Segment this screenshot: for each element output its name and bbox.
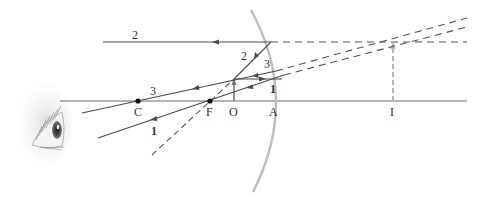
label-ray-2-inner: 2 <box>241 49 247 63</box>
ray-1-reflected <box>98 75 284 138</box>
ray-2-arrowhead <box>212 40 219 45</box>
ray-1-incident-arrowhead <box>259 77 266 82</box>
label-ray-3-inner: 3 <box>264 57 270 71</box>
label-ray-2-outer: 2 <box>132 28 138 42</box>
ray-3-incident-arrowhead <box>252 73 259 78</box>
label-ray-1-inner: 1 <box>270 82 276 96</box>
focal-point <box>207 98 212 103</box>
label-I: I <box>390 105 394 119</box>
label-O: O <box>229 105 238 119</box>
center-of-curvature-point <box>135 98 140 103</box>
label-C: C <box>134 105 142 119</box>
ray-2-incident-arrowhead <box>254 52 259 59</box>
label-A: A <box>269 105 278 119</box>
ray-1-reflected-arrowhead-2 <box>246 85 254 90</box>
label-F: F <box>206 105 213 119</box>
label-ray-1-outer: 1 <box>151 124 157 138</box>
ray-3-reflected <box>82 71 276 113</box>
ray-diagram: C F O A I 2 2 3 3 1 1 <box>0 0 483 197</box>
ray-2-focal-guide <box>152 79 234 155</box>
ray-3-virtual-extension <box>276 18 467 71</box>
label-ray-3-outer: 3 <box>150 84 156 98</box>
ray-1-virtual-extension <box>284 27 467 75</box>
eye-icon <box>12 83 72 167</box>
